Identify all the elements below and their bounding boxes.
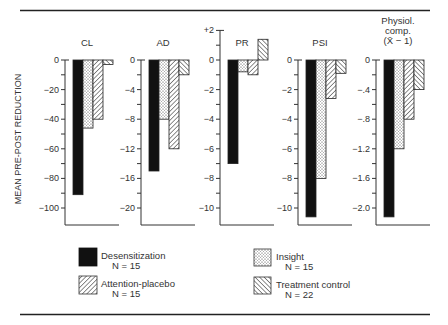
y-tick-label: −1.6 (352, 173, 370, 183)
y-tick-label: −2 (204, 85, 214, 95)
bar-attention-placebo (93, 60, 103, 119)
legend-swatch-attention-placebo (79, 276, 97, 294)
bar-treatment-control (179, 60, 189, 75)
legend-swatch-insight (254, 249, 271, 266)
panel-3: PSI0−2−4−6−8−10 (277, 37, 352, 225)
bar-attention-placebo (169, 60, 179, 149)
chart-figure: MEAN PRE-POST REDUCTION CL0−20−40−60−80−… (0, 0, 448, 325)
bar-insight (316, 60, 326, 178)
bar-insight (159, 60, 169, 119)
panel-0: CL0−20−40−60−80−100 (39, 37, 119, 225)
bar-desensitization (149, 60, 159, 171)
y-tick-label: −20 (120, 203, 135, 213)
y-tick-label: −4 (204, 114, 214, 124)
y-tick-label: −20 (44, 85, 59, 95)
y-tick-label: −2.0 (352, 203, 370, 213)
y-tick-label: 0 (287, 55, 292, 65)
y-tick-label: −8 (125, 114, 135, 124)
panel-title: AD (156, 37, 169, 48)
panel-title: PSI (312, 37, 327, 48)
y-tick-label: −40 (44, 114, 59, 124)
y-tick-label: −6 (204, 144, 214, 154)
y-tick-label: −8 (204, 173, 214, 183)
y-tick-label: −12 (120, 144, 135, 154)
bar-desensitization (73, 60, 83, 195)
y-tick-label: +2 (204, 25, 214, 35)
bar-attention-placebo (326, 60, 336, 98)
y-tick-label: 0 (365, 55, 370, 65)
y-tick-label: −2 (282, 85, 292, 95)
panel-1: AD0−4−8−12−16−20 (120, 37, 195, 225)
bar-insight (83, 60, 93, 128)
panel-title: CL (81, 37, 93, 48)
y-tick-label: 0 (54, 55, 59, 65)
y-tick-label: −8 (282, 173, 292, 183)
y-tick-label: −80 (44, 173, 59, 183)
y-tick-label: −16 (120, 173, 135, 183)
bar-treatment-control (336, 60, 346, 73)
panel-title: (X̄ − 1) (384, 35, 413, 46)
bar-treatment-control (103, 60, 113, 64)
legend-swatch-treatment-control (254, 277, 271, 294)
bar-insight (394, 60, 404, 149)
y-tick-label: −.8 (357, 114, 370, 124)
y-tick-label: −4 (125, 85, 135, 95)
y-tick-label: −6 (282, 144, 292, 154)
bar-insight (238, 60, 248, 72)
legend-n-treatment-control: N = 22 (285, 289, 313, 300)
bar-desensitization (228, 60, 238, 164)
y-tick-label: −10 (277, 203, 292, 213)
y-tick-label: −4 (282, 114, 292, 124)
legend-swatch-desensitization (79, 248, 97, 266)
bar-treatment-control (258, 39, 268, 60)
y-tick-label: −.4 (357, 85, 370, 95)
y-tick-label: 0 (130, 55, 135, 65)
panel-title: PR (235, 37, 248, 48)
bar-desensitization (384, 60, 394, 217)
y-tick-label: −60 (44, 144, 59, 154)
panel-2: PR+20−2−4−6−8−10 (199, 25, 274, 225)
y-tick-label: 0 (209, 55, 214, 65)
y-tick-label: −10 (199, 203, 214, 213)
y-tick-label: −100 (39, 203, 59, 213)
panel-4: Physiol.comp.(X̄ − 1)0−.4−.8−1.2−1.6−2.0 (352, 15, 430, 225)
legend: Desensitization N = 15 Attention-placebo… (79, 248, 350, 300)
y-tick-label: −1.2 (352, 144, 370, 154)
panels: CL0−20−40−60−80−100AD0−4−8−12−16−20PR+20… (39, 15, 430, 225)
legend-n-desensitization: N = 15 (112, 260, 140, 271)
bar-desensitization (306, 60, 316, 217)
legend-n-insight: N = 15 (285, 261, 313, 272)
bar-attention-placebo (248, 60, 258, 75)
legend-n-attention-placebo: N = 15 (112, 288, 140, 299)
bar-attention-placebo (404, 60, 414, 119)
y-axis-label: MEAN PRE-POST REDUCTION (13, 74, 23, 204)
bar-treatment-control (414, 60, 424, 90)
